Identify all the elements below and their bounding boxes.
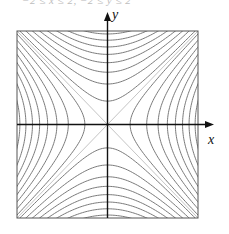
contour-plot [0, 0, 229, 234]
y-axis-label: y [112, 7, 118, 23]
x-axis-label: x [208, 132, 214, 148]
x-axis-arrow-icon [205, 121, 214, 128]
y-axis-arrow-icon [104, 12, 111, 21]
